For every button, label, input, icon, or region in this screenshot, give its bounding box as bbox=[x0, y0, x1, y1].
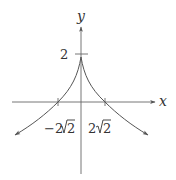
neg-root-label: −2 2 bbox=[44, 120, 75, 136]
y-axis-label: y bbox=[76, 8, 86, 24]
pos-root-label: 2 2 bbox=[88, 120, 111, 136]
pos-root-coef: 2 bbox=[88, 121, 96, 136]
neg-root-radicand: 2 bbox=[67, 121, 75, 136]
graph-canvas: y x 2 −2 2 2 2 bbox=[0, 0, 176, 180]
neg-root-coef: −2 bbox=[44, 121, 63, 136]
x-axis-label: x bbox=[159, 93, 167, 109]
y-intercept-label: 2 bbox=[60, 47, 68, 62]
pos-root-radicand: 2 bbox=[103, 121, 111, 136]
